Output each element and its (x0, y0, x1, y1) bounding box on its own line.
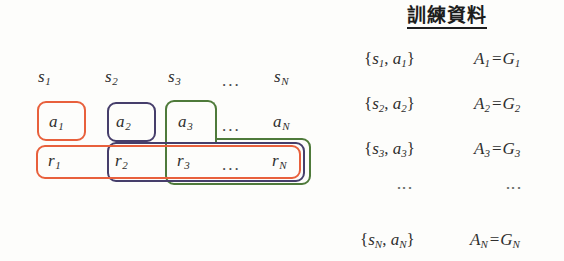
training-equation-n: AN=GN (470, 231, 520, 250)
state-cell-2: s2 (105, 68, 118, 87)
state-cell-n: sN (274, 68, 289, 87)
pair-2-action: a2 (393, 94, 407, 113)
equation-3-equals: = (492, 139, 502, 158)
pair-3-action: a3 (393, 139, 407, 158)
training-pair-n: {sN, aN} (360, 231, 415, 250)
state-cell-1: s1 (38, 68, 51, 87)
training-equation-3: A3=G3 (474, 140, 520, 159)
equation-column-vertical-dots: ⋮ (505, 180, 521, 198)
equation-1-return: G1 (502, 49, 520, 68)
equation-n-equals: = (490, 230, 500, 249)
training-equation-2: A2=G2 (474, 95, 520, 114)
action-row-ellipsis: ... (222, 117, 241, 134)
training-pair-2: {s2, a2} (364, 95, 415, 114)
pair-column-vertical-dots: ⋮ (396, 180, 412, 198)
pair-3-comma: , (384, 139, 388, 158)
diagram-root: s1 s2 s3 ... sN a1 a2 a3 ... aN r1 r2 r3… (0, 0, 564, 261)
pair-3-state: s3 (372, 139, 384, 158)
pair-n-open-brace: { (360, 230, 368, 249)
state-row-ellipsis: ... (222, 72, 241, 89)
pair-1-state: s1 (372, 49, 384, 68)
training-equation-1: A1=G1 (474, 50, 520, 69)
equation-2-advantage: A2 (474, 94, 490, 113)
pair-2-comma: , (384, 94, 388, 113)
equation-2-equals: = (492, 94, 502, 113)
pair-2-open-brace: { (364, 94, 372, 113)
pair-3-close-brace: } (407, 139, 415, 158)
pair-n-close-brace: } (406, 230, 414, 249)
equation-n-advantage: AN (470, 230, 488, 249)
state-cell-3: s3 (168, 68, 181, 87)
pair-2-state: s2 (372, 94, 384, 113)
pair-3-open-brace: { (364, 139, 372, 158)
action-cell-n: aN (273, 113, 290, 132)
pair-1-action: a1 (393, 49, 407, 68)
equation-3-return: G3 (502, 139, 520, 158)
pair-n-state: sN (368, 230, 382, 249)
pair-n-comma: , (382, 230, 386, 249)
pair-n-action: aN (391, 230, 407, 249)
equation-n-return: GN (500, 230, 520, 249)
group-orange-reward-band (36, 145, 301, 179)
pair-2-close-brace: } (407, 94, 415, 113)
equation-3-advantage: A3 (474, 139, 490, 158)
group-purple-action-box (107, 102, 156, 142)
equation-1-advantage: A1 (474, 49, 490, 68)
training-data-title: 訓練資料 (407, 6, 487, 29)
group-orange-action-box (37, 101, 86, 141)
training-pair-3: {s3, a3} (364, 140, 415, 159)
pair-1-comma: , (384, 49, 388, 68)
pair-1-close-brace: } (407, 49, 415, 68)
equation-2-return: G2 (502, 94, 520, 113)
training-pair-1: {s1, a1} (364, 50, 415, 69)
pair-1-open-brace: { (364, 49, 372, 68)
group-green-joint-mask (167, 136, 215, 141)
equation-1-equals: = (492, 49, 502, 68)
